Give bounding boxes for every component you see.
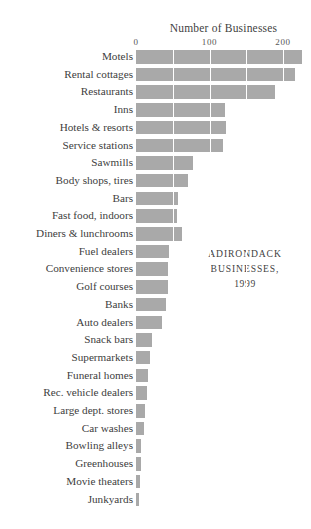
bar-category-label: Snack bars bbox=[84, 333, 133, 347]
bar-rect bbox=[136, 156, 193, 170]
bar-category-label: Banks bbox=[105, 298, 133, 312]
bar-category-label: Rental cottages bbox=[64, 68, 133, 82]
bar-row: Bars bbox=[0, 192, 311, 210]
bar-category-label: Auto dealers bbox=[76, 316, 133, 330]
bar-rect bbox=[136, 174, 188, 188]
bar-category-label: Car washes bbox=[82, 422, 133, 436]
bar-rect bbox=[136, 316, 162, 330]
annotation-line-3: 1999 bbox=[186, 276, 304, 291]
bar-category-label: Golf courses bbox=[76, 280, 133, 294]
bar-rect bbox=[136, 439, 141, 453]
x-tick-label-0: 0 bbox=[133, 37, 138, 47]
bar-category-label: Bars bbox=[112, 192, 133, 206]
bar-row: Inns bbox=[0, 103, 311, 121]
bar-category-label: Service stations bbox=[62, 139, 133, 153]
annotation-line-2: BUSINESSES, bbox=[186, 261, 304, 276]
x-axis-tick-labels: 0100200 bbox=[0, 37, 311, 50]
bar-category-label: Movie theaters bbox=[66, 475, 133, 489]
bar-category-label: Inns bbox=[114, 103, 133, 117]
bar-rect bbox=[136, 298, 166, 312]
bar-row: Bowling alleys bbox=[0, 439, 311, 457]
x-tick-label-200: 200 bbox=[275, 37, 290, 47]
bar-row: Snack bars bbox=[0, 333, 311, 351]
bar-row: Fast food, indoors bbox=[0, 209, 311, 227]
bar-row: Funeral homes bbox=[0, 369, 311, 387]
bar-row: Rec. vehicle dealers bbox=[0, 386, 311, 404]
bar-category-label: Junkyards bbox=[88, 493, 133, 507]
bar-rect bbox=[136, 369, 148, 383]
bar-row: Service stations bbox=[0, 139, 311, 157]
bar-row: Large dept. stores bbox=[0, 404, 311, 422]
bar-category-label: Large dept. stores bbox=[53, 404, 133, 418]
bar-row: Diners & lunchrooms bbox=[0, 227, 311, 245]
bar-row: Greenhouses bbox=[0, 457, 311, 475]
bar-rect bbox=[136, 50, 302, 64]
bar-category-label: Restaurants bbox=[81, 85, 133, 99]
bar-rect bbox=[136, 493, 139, 507]
bar-row: Supermarkets bbox=[0, 351, 311, 369]
bar-row: Banks bbox=[0, 298, 311, 316]
bar-row: Junkyards bbox=[0, 493, 311, 511]
bar-rect bbox=[136, 280, 168, 294]
bar-rect bbox=[136, 139, 223, 153]
bar-category-label: Bowling alleys bbox=[66, 439, 133, 453]
chart-annotation: ADIRONDACK BUSINESSES, 1999 bbox=[186, 246, 304, 291]
bar-row: Car washes bbox=[0, 422, 311, 440]
bar-category-label: Convenience stores bbox=[46, 262, 133, 276]
annotation-line-1: ADIRONDACK bbox=[186, 246, 304, 261]
bar-rect bbox=[136, 68, 295, 82]
bar-rect bbox=[136, 386, 147, 400]
bar-rect bbox=[136, 333, 152, 347]
bar-rect bbox=[136, 227, 182, 241]
bar-row: Motels bbox=[0, 50, 311, 68]
chart-axis-title: Number of Businesses bbox=[136, 22, 311, 34]
bar-rect bbox=[136, 192, 178, 206]
bar-category-label: Funeral homes bbox=[67, 369, 133, 383]
bar-row: Auto dealers bbox=[0, 316, 311, 334]
bar-rect bbox=[136, 121, 226, 135]
bar-row: Restaurants bbox=[0, 85, 311, 103]
bar-category-label: Motels bbox=[102, 50, 133, 64]
x-tick-label-100: 100 bbox=[202, 37, 217, 47]
bar-category-label: Rec. vehicle dealers bbox=[43, 386, 133, 400]
bar-rect bbox=[136, 475, 140, 489]
bar-category-label: Greenhouses bbox=[75, 457, 133, 471]
bar-category-label: Body shops, tires bbox=[56, 174, 133, 188]
bar-row: Rental cottages bbox=[0, 68, 311, 86]
bar-rect bbox=[136, 422, 144, 436]
bar-row: Body shops, tires bbox=[0, 174, 311, 192]
bar-rect bbox=[136, 262, 168, 276]
bar-category-label: Fuel dealers bbox=[79, 245, 133, 259]
bar-row: Movie theaters bbox=[0, 475, 311, 493]
bar-rect bbox=[136, 457, 141, 471]
bar-category-label: Fast food, indoors bbox=[52, 209, 133, 223]
bar-rect bbox=[136, 404, 145, 418]
bar-row: Sawmills bbox=[0, 156, 311, 174]
bar-category-label: Supermarkets bbox=[71, 351, 133, 365]
bar-rect bbox=[136, 245, 169, 259]
bar-category-label: Hotels & resorts bbox=[60, 121, 133, 135]
bar-category-label: Diners & lunchrooms bbox=[36, 227, 133, 241]
bar-rect bbox=[136, 351, 150, 365]
bar-row: Hotels & resorts bbox=[0, 121, 311, 139]
bar-rect bbox=[136, 103, 225, 117]
business-count-bar-chart: Number of Businesses 0100200 MotelsRenta… bbox=[0, 0, 311, 529]
bar-rect bbox=[136, 85, 275, 99]
bar-category-label: Sawmills bbox=[91, 156, 133, 170]
bar-rect bbox=[136, 209, 177, 223]
